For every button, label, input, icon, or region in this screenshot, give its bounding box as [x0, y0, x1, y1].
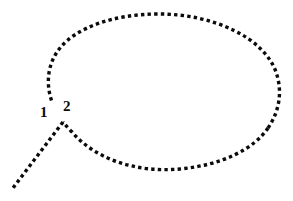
balloon-upper-dotted-arc — [48, 14, 279, 128]
point-label-1: 1 — [40, 105, 48, 120]
balloon-tail-group — [13, 122, 63, 188]
figure-container: 1 2 — [0, 0, 293, 201]
speech-balloon-diagram — [0, 0, 293, 201]
balloon-outline-group — [48, 14, 279, 170]
point-label-2: 2 — [63, 99, 71, 114]
balloon-lower-dotted-arc — [63, 122, 268, 170]
balloon-tail-dotted-line — [13, 122, 63, 188]
